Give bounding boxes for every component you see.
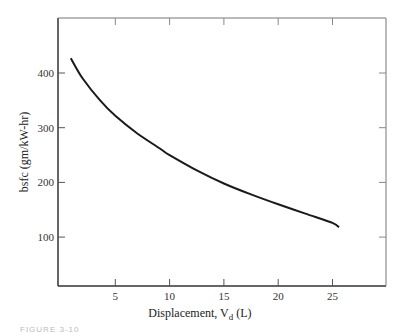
- y-tick-label: 200: [38, 176, 55, 188]
- y-tick-label: 100: [38, 231, 55, 243]
- x-tick-label: 15: [218, 290, 230, 302]
- x-axis-title-main: Displacement, V: [148, 306, 229, 320]
- x-axis-title-unit: (L): [233, 306, 251, 320]
- x-tick-label: 25: [327, 290, 339, 302]
- y-tick-label: 400: [38, 67, 55, 79]
- x-tick-label: 20: [273, 290, 285, 302]
- y-tick-label: 300: [38, 122, 55, 134]
- tick-labels: 510152025100200300400: [38, 67, 339, 302]
- x-tick-label: 5: [113, 290, 119, 302]
- y-axis-title: bsfc (gm/kW-hr): [17, 112, 31, 192]
- axis-ticks: [58, 18, 386, 286]
- x-tick-label: 10: [164, 290, 176, 302]
- figure-caption: FIGURE 3-10: [20, 325, 79, 333]
- x-axis-title: Displacement, Vd (L): [148, 306, 251, 322]
- plot-frame: [58, 18, 386, 286]
- chart: 510152025100200300400 bsfc (gm/kW-hr) Di…: [0, 0, 403, 333]
- bsfc-curve: [71, 58, 339, 227]
